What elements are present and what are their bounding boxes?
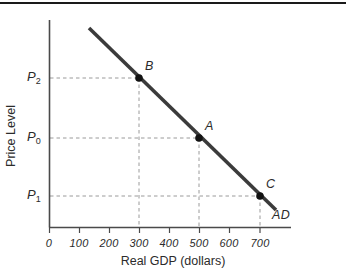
xtick-label-600: 600: [220, 238, 239, 249]
y-axis-title: Price Level: [5, 105, 18, 167]
point-marker-a: [195, 134, 203, 142]
xtick-label-700: 700: [251, 238, 270, 249]
ytick-label-p2: P2: [27, 70, 41, 87]
chart-plot-area: [0, 0, 346, 274]
ytick-label-p0: P0: [27, 130, 41, 147]
ytick-label-p1: P1: [27, 188, 41, 205]
xtick-label-100: 100: [70, 238, 89, 249]
point-label-a: A: [205, 120, 213, 133]
x-axis-title: Real GDP (dollars): [121, 255, 226, 268]
xtick-label-300: 300: [130, 238, 149, 249]
point-label-c: C: [266, 178, 275, 191]
xtick-label-500: 500: [190, 238, 209, 249]
point-label-b: B: [145, 60, 153, 73]
xtick-label-400: 400: [160, 238, 179, 249]
xtick-label-200: 200: [100, 238, 119, 249]
ad-curve-label: AD: [272, 209, 290, 222]
xtick-label-0: 0: [46, 238, 52, 249]
point-marker-c: [256, 192, 264, 200]
ad-curve: [89, 28, 276, 210]
point-marker-b: [135, 74, 143, 82]
aggregate-demand-chart: P2 P0 P1 0 100 200 300 400 500 600 700 B…: [0, 0, 346, 274]
